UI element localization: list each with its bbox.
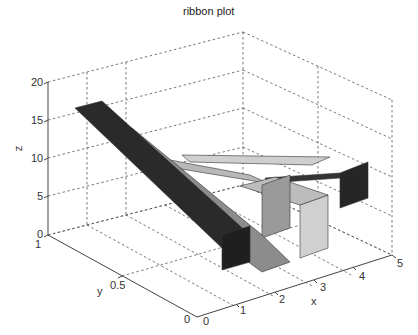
ribbon-plot-figure: ribbon plot 20 15 10 5 0 z 1 0.5 0 y 0 1… — [0, 0, 418, 335]
chart-title: ribbon plot — [183, 6, 234, 17]
x-tick-1: 1 — [240, 305, 246, 316]
ribbon-light-3-panel — [300, 195, 328, 258]
y-tick-0: 0 — [184, 314, 190, 325]
z-tick-10: 10 — [31, 153, 43, 164]
x-tick-3: 3 — [320, 282, 326, 293]
x-tick-4: 4 — [359, 271, 365, 282]
x-tick-0: 0 — [203, 316, 209, 327]
x-tick-5: 5 — [397, 258, 403, 269]
y-tick-1: 1 — [35, 239, 41, 250]
y-axis-line — [48, 235, 197, 317]
z-axis-label: z — [13, 146, 24, 152]
z-tick-20: 20 — [31, 77, 43, 88]
ribbons — [75, 101, 368, 272]
x-axis-label: x — [311, 296, 317, 307]
plot-canvas — [0, 0, 418, 335]
x-tick-2: 2 — [279, 294, 285, 305]
y-tick-0.5: 0.5 — [110, 280, 125, 291]
y-axis-label: y — [97, 286, 103, 297]
ribbon-light-flat — [182, 155, 330, 165]
ribbon-mid-panel — [262, 175, 290, 238]
z-tick-15: 15 — [31, 115, 43, 126]
z-tick-5: 5 — [37, 191, 43, 202]
ribbon-dark-end-panel — [340, 162, 368, 208]
